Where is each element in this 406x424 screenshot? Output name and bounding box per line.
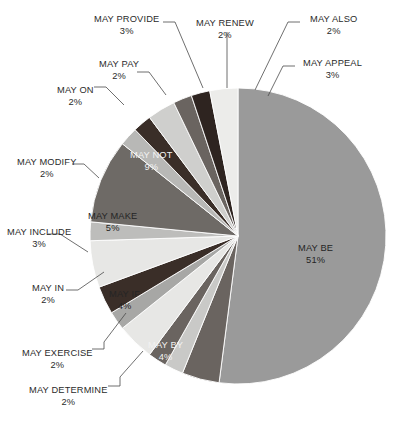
- pie-slice-label-name: MAY NOT: [130, 150, 173, 160]
- pie-slice-label: MAY APPEAL3%: [303, 58, 362, 81]
- pie-slice-label-value: 2%: [57, 97, 94, 109]
- pie-slice-label-name: MAY BY: [148, 340, 183, 350]
- pie-slice-label-value: 9%: [144, 162, 158, 172]
- pie-slice[interactable]: [219, 88, 386, 384]
- pie-slice-label-name: MAY RENEW: [196, 18, 254, 28]
- pie-slice-label-value: 2%: [29, 397, 108, 409]
- pie-slice-label: MAY BE51%: [298, 243, 333, 266]
- leader-line-may-pay: [137, 72, 166, 95]
- pie-slice-label: MAY ON2%: [57, 85, 94, 108]
- pie-slice-label-name: MAY ON: [57, 85, 94, 95]
- pie-slice-label: MAY RENEW2%: [196, 18, 254, 41]
- pie-slice-label-name: MAY EXERCISE: [22, 348, 93, 358]
- pie-slice-label: MAY PROVIDE3%: [94, 14, 159, 37]
- pie-slice-group: [90, 88, 386, 384]
- pie-slice-label-name: MAY IF: [109, 289, 140, 299]
- pie-slice-label-value: 2%: [17, 169, 77, 181]
- pie-slice-label: MAY PAY2%: [99, 59, 139, 82]
- pie-slice-label-value: 2%: [310, 26, 357, 38]
- pie-slice-label-name: MAY PROVIDE: [94, 14, 159, 24]
- pie-slice-label: MAY INCLUDE3%: [7, 227, 71, 250]
- pie-slice-label-name: MAY DETERMINE: [29, 385, 108, 395]
- pie-slice-label-name: MAY ALSO: [310, 14, 357, 24]
- pie-slice-label-value: 51%: [306, 255, 325, 265]
- pie-slice-label: MAY EXERCISE2%: [22, 348, 93, 371]
- pie-slice-label-name: MAY MODIFY: [17, 157, 77, 167]
- pie-slice-label-name: MAY BE: [298, 243, 333, 253]
- pie-slice-label-value: 2%: [32, 295, 64, 307]
- pie-slice-label-value: 3%: [94, 26, 159, 38]
- leader-line-may-determine: [108, 351, 143, 386]
- pie-slice-label: MAY MAKE5%: [88, 211, 137, 234]
- pie-slice-label-name: MAY PAY: [99, 59, 139, 69]
- pie-slice-label-value: 2%: [99, 71, 139, 83]
- pie-slice-label: MAY BY4%: [148, 340, 183, 363]
- pie-slice-label-value: 2%: [196, 30, 254, 42]
- pie-slice-label-value: 3%: [303, 70, 362, 82]
- pie-slice-label: MAY DETERMINE2%: [29, 385, 108, 408]
- pie-slice-label: MAY NOT9%: [130, 150, 173, 173]
- leader-line-may-also: [255, 22, 300, 90]
- pie-slice-label-name: MAY MAKE: [88, 211, 137, 221]
- pie-slice-label-value: 4%: [118, 301, 132, 311]
- pie-slice-label-value: 2%: [22, 360, 93, 372]
- pie-slice-label-value: 5%: [106, 223, 120, 233]
- pie-slice-label: MAY ALSO2%: [310, 14, 357, 37]
- pie-slice-label-name: MAY APPEAL: [303, 58, 362, 68]
- leader-line-may-on: [94, 87, 124, 105]
- pie-slice-label-name: MAY IN: [32, 283, 64, 293]
- pie-slice-label: MAY IF4%: [109, 289, 140, 312]
- pie-slice-label: MAY IN2%: [32, 283, 64, 306]
- pie-slice-label-value: 4%: [159, 352, 173, 362]
- pie-slice-label: MAY MODIFY2%: [17, 157, 77, 180]
- pie-slice-label-name: MAY INCLUDE: [7, 227, 71, 237]
- pie-slice-label-value: 3%: [7, 239, 71, 251]
- pie-chart: MAY BE51%MAY BY4%MAY DETERMINE2%MAY EXER…: [0, 0, 406, 424]
